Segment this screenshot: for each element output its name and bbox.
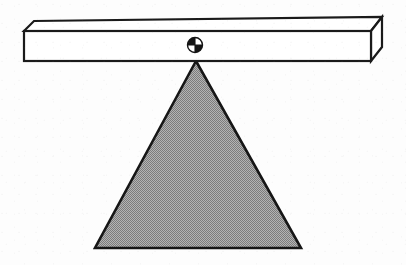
lever-beam-group (24, 17, 382, 61)
fulcrum-group (95, 61, 301, 248)
lever-figure: Black-and-white line drawing of a horizo… (0, 0, 406, 265)
triangular-fulcrum (95, 61, 301, 248)
beam-top-face (24, 17, 382, 31)
lever-diagram-canvas (0, 0, 406, 265)
